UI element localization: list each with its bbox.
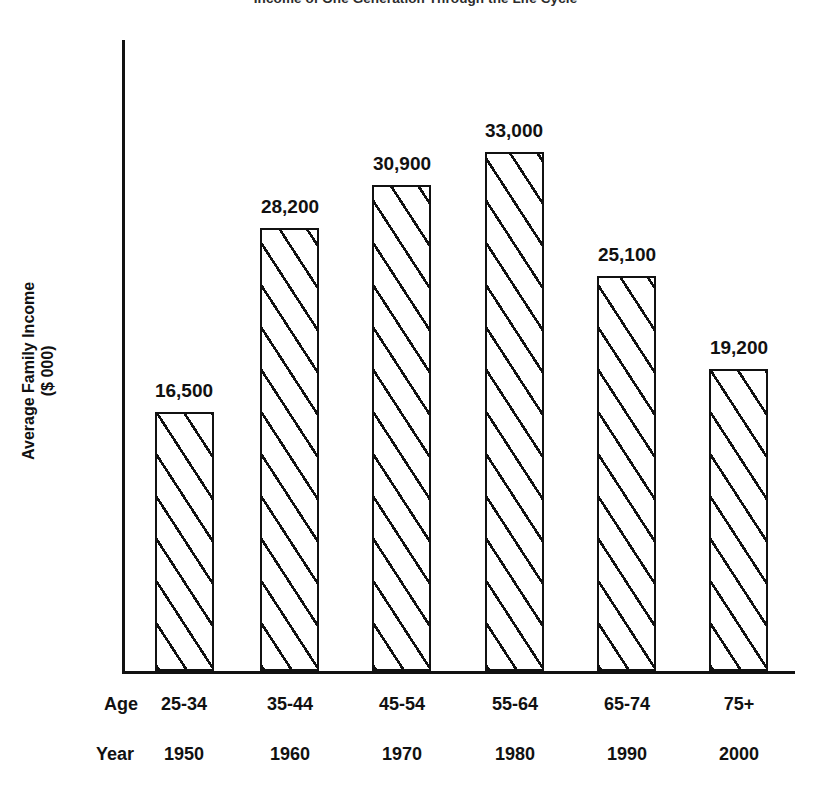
y-axis-line [122, 40, 125, 674]
x-axis-label-age-75plus: 75+ [724, 694, 755, 715]
chart-page: Income of One Generation Through the Lif… [0, 0, 831, 801]
x-axis-label-year-1960: 1960 [270, 744, 310, 765]
chart-title: Income of One Generation Through the Lif… [0, 0, 831, 6]
bar-value-45-54: 30,900 [373, 153, 431, 175]
bar-35-44 [260, 228, 319, 671]
y-axis-title: Average Family Income ($ 000) [20, 221, 58, 521]
x-axis-line [122, 671, 795, 674]
x-axis-label-year-1990: 1990 [607, 744, 647, 765]
bar-value-65-74: 25,100 [598, 244, 656, 266]
bar-65-74 [597, 276, 656, 671]
x-axis-label-year-2000: 2000 [719, 744, 759, 765]
year-row-label: Year [96, 744, 134, 765]
x-axis-label-age-45-54: 45-54 [379, 694, 425, 715]
x-axis-label-age-25-34: 25-34 [161, 694, 207, 715]
plot-area: 40 35 30 25 20 15 10 5 0 16,500 28,200 3… [122, 40, 795, 677]
y-axis-title-line-2: ($ 000) [39, 221, 58, 521]
x-axis-label-age-65-74: 65-74 [604, 694, 650, 715]
bar-55-64 [485, 152, 544, 671]
age-row-label: Age [104, 694, 138, 715]
y-axis-title-line-1: Average Family Income [20, 221, 39, 521]
x-axis-label-year-1980: 1980 [495, 744, 535, 765]
bar-45-54 [372, 185, 431, 671]
bar-value-35-44: 28,200 [261, 196, 319, 218]
bar-value-75plus: 19,200 [710, 337, 768, 359]
bar-75plus [709, 369, 768, 671]
x-axis-label-year-1970: 1970 [382, 744, 422, 765]
bar-value-25-34: 16,500 [155, 380, 213, 402]
x-axis-label-age-55-64: 55-64 [492, 694, 538, 715]
x-axis-label-age-35-44: 35-44 [267, 694, 313, 715]
bar-value-55-64: 33,000 [485, 120, 543, 142]
x-axis-label-year-1950: 1950 [164, 744, 204, 765]
bar-25-34 [155, 412, 214, 671]
